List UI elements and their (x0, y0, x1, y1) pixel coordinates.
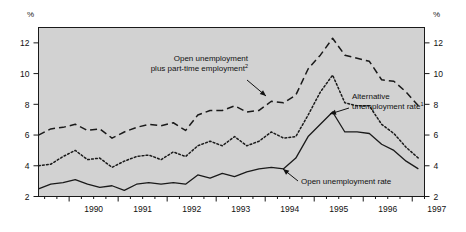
annotation-line: Open unemployment (174, 54, 249, 63)
y-tick-label-left: 2 (25, 192, 30, 202)
x-tick-label: 1992 (182, 204, 201, 214)
y-tick-label-right: 8 (434, 100, 439, 110)
y-tick-label-right: 6 (434, 130, 439, 140)
y-tick-label-left: 6 (25, 130, 30, 140)
y-tick-label-right: 10 (434, 69, 444, 79)
x-tick-label: 1991 (133, 204, 152, 214)
x-tick-label: 1994 (280, 204, 299, 214)
annotation-line: Open unemployment rate (301, 177, 392, 186)
y-tick-label-left: 4 (25, 161, 30, 171)
y-tick-label-left: 12 (20, 38, 30, 48)
annotation-line: Alternative (352, 92, 390, 101)
y-tick-label-right: 2 (434, 192, 439, 202)
plot-background (39, 28, 425, 197)
y-tick-label-left: 8 (25, 100, 30, 110)
x-tick-label: 1993 (231, 204, 250, 214)
x-tick-label: 1996 (378, 204, 397, 214)
unemployment-rates-chart: % % 224466881010121219901991199219931994… (0, 0, 466, 232)
annotation-line: plus part-time employment2 (151, 63, 248, 73)
x-tick-label: 1997 (427, 204, 446, 214)
chart-plot-area: 2244668810101212199019911992199319941995… (0, 0, 466, 232)
y-tick-label-right: 12 (434, 38, 444, 48)
annotation-line: unemployment rate1 (352, 101, 424, 111)
y-tick-label-left: 10 (20, 69, 30, 79)
y-tick-label-right: 4 (434, 161, 439, 171)
x-tick-label: 1995 (329, 204, 348, 214)
x-tick-label: 1990 (84, 204, 103, 214)
